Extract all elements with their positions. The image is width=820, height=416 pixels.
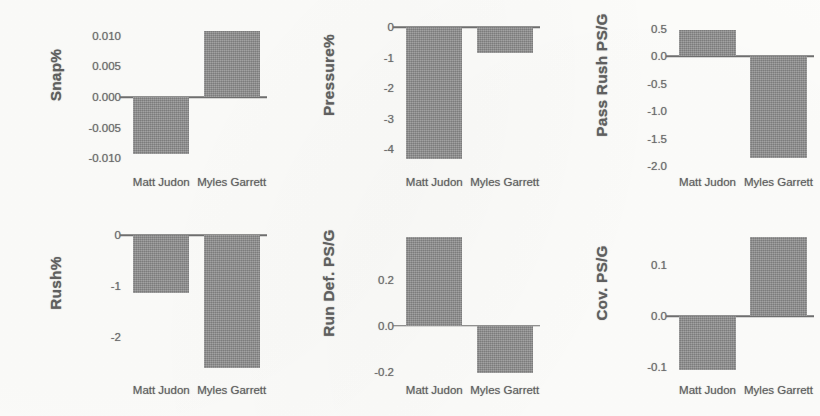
y-tick-label: 0.000 bbox=[92, 91, 121, 103]
x-tick-label: Myles Garrett bbox=[744, 176, 813, 188]
bar bbox=[133, 235, 189, 292]
y-axis-title-label: Snap% bbox=[47, 49, 65, 102]
bar bbox=[204, 31, 260, 97]
y-tick-label: 0.0 bbox=[651, 310, 667, 322]
bar bbox=[477, 326, 533, 373]
bars-canvas bbox=[126, 230, 267, 380]
chart-panel-pass-rush-psg: Pass Rush PS/G 0.50.0-0.5-1.0-1.5-2.0 Ma… bbox=[546, 0, 820, 208]
bars-canvas bbox=[399, 22, 540, 172]
bars-canvas bbox=[672, 230, 814, 380]
chart-grid: Snap% 0.0100.0050.000-0.005-0.010 Matt J… bbox=[0, 0, 820, 416]
y-tick-labels: 0.0100.0050.000-0.005-0.010 bbox=[78, 22, 124, 172]
y-tick-labels: 0-1-2 bbox=[78, 230, 124, 380]
bars-canvas bbox=[399, 230, 540, 380]
y-tick-label: 0.1 bbox=[651, 259, 667, 271]
chart-panel-run-def-psg: Run Def. PS/G 0.20.0-0.2 Matt JudonMyles… bbox=[273, 208, 546, 416]
y-axis-title-label: Pass Rush PS/G bbox=[593, 13, 611, 136]
y-tick-labels: 0.20.0-0.2 bbox=[351, 230, 397, 380]
bar bbox=[406, 27, 462, 158]
y-tick-label: -1 bbox=[111, 280, 121, 292]
y-tick-label: -4 bbox=[384, 143, 394, 155]
y-tick-label: -0.1 bbox=[647, 361, 667, 373]
bar bbox=[133, 97, 189, 154]
y-tick-label: -2 bbox=[111, 331, 121, 343]
y-tick-label: 0.5 bbox=[651, 23, 667, 35]
chart-panel-rush-pct: Rush% 0-1-2 Matt JudonMyles Garrett bbox=[0, 208, 273, 416]
y-tick-label: 0.0 bbox=[378, 320, 394, 332]
x-tick-label: Myles Garrett bbox=[197, 384, 266, 396]
bar bbox=[477, 27, 533, 53]
plot-area: 0.50.0-0.5-1.0-1.5-2.0 bbox=[624, 22, 814, 172]
bar bbox=[750, 56, 807, 158]
y-tick-label: 0.005 bbox=[92, 60, 121, 72]
x-tick-label: Matt Judon bbox=[133, 384, 190, 396]
y-tick-label: -0.005 bbox=[88, 122, 121, 134]
y-tick-label: -1.5 bbox=[647, 133, 667, 145]
figure-root: Snap% 0.0100.0050.000-0.005-0.010 Matt J… bbox=[0, 0, 820, 416]
chart-panel-pressure-pct: Pressure% 0-1-2-3-4 Matt JudonMyles Garr… bbox=[273, 0, 546, 208]
x-tick-labels: Matt JudonMyles Garrett bbox=[672, 384, 814, 402]
x-tick-label: Matt Judon bbox=[406, 176, 463, 188]
bar bbox=[679, 30, 736, 56]
y-tick-labels: 0.50.0-0.5-1.0-1.5-2.0 bbox=[624, 22, 670, 172]
chart-panel-cov-psg: Cov. PS/G 0.10.0-0.1 Matt JudonMyles Gar… bbox=[546, 208, 820, 416]
y-tick-label: 0.2 bbox=[378, 274, 394, 286]
bar bbox=[406, 237, 462, 326]
x-tick-label: Matt Judon bbox=[679, 384, 736, 396]
y-tick-label: 0.0 bbox=[651, 50, 667, 62]
y-tick-label: -3 bbox=[384, 113, 394, 125]
y-tick-label: -2 bbox=[384, 82, 394, 94]
x-tick-labels: Matt JudonMyles Garrett bbox=[126, 176, 267, 194]
y-tick-label: -2.0 bbox=[647, 160, 667, 172]
y-tick-labels: 0-1-2-3-4 bbox=[351, 22, 397, 172]
plot-area: 0.10.0-0.1 bbox=[624, 230, 814, 380]
x-tick-labels: Matt JudonMyles Garrett bbox=[399, 176, 540, 194]
y-tick-label: 0.010 bbox=[92, 30, 121, 42]
y-tick-label: -1.0 bbox=[647, 105, 667, 117]
y-tick-label: -0.010 bbox=[88, 152, 121, 164]
y-tick-labels: 0.10.0-0.1 bbox=[624, 230, 670, 380]
bar bbox=[204, 235, 260, 368]
bars-canvas bbox=[126, 22, 267, 172]
plot-area: 0.0100.0050.000-0.005-0.010 bbox=[78, 22, 267, 172]
x-tick-label: Myles Garrett bbox=[744, 384, 813, 396]
y-axis-title-label: Cov. PS/G bbox=[593, 245, 611, 321]
plot-area: 0-1-2 bbox=[78, 230, 267, 380]
plot-area: 0.20.0-0.2 bbox=[351, 230, 540, 380]
y-tick-label: -1 bbox=[384, 52, 394, 64]
y-tick-label: -0.5 bbox=[647, 78, 667, 90]
plot-area: 0-1-2-3-4 bbox=[351, 22, 540, 172]
y-axis-title-label: Pressure% bbox=[320, 34, 338, 116]
x-tick-labels: Matt JudonMyles Garrett bbox=[672, 176, 814, 194]
chart-panel-snap-pct: Snap% 0.0100.0050.000-0.005-0.010 Matt J… bbox=[0, 0, 273, 208]
y-axis-title-label: Rush% bbox=[47, 256, 65, 310]
x-tick-label: Myles Garrett bbox=[470, 176, 539, 188]
x-tick-label: Matt Judon bbox=[133, 176, 190, 188]
x-tick-labels: Matt JudonMyles Garrett bbox=[126, 384, 267, 402]
bar bbox=[679, 316, 736, 370]
bar bbox=[750, 237, 807, 316]
y-axis-title-label: Run Def. PS/G bbox=[320, 229, 338, 337]
x-tick-label: Matt Judon bbox=[406, 384, 463, 396]
x-tick-labels: Matt JudonMyles Garrett bbox=[399, 384, 540, 402]
x-tick-label: Myles Garrett bbox=[197, 176, 266, 188]
x-tick-label: Matt Judon bbox=[679, 176, 736, 188]
bars-canvas bbox=[672, 22, 814, 172]
y-tick-label: -0.2 bbox=[374, 366, 394, 378]
x-tick-label: Myles Garrett bbox=[470, 384, 539, 396]
